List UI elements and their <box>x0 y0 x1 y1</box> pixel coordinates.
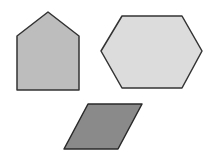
parallelogram-shape <box>64 104 142 149</box>
hexagon-shape <box>101 16 202 88</box>
shapes-canvas <box>0 0 214 158</box>
pentagon-shape <box>17 12 79 90</box>
